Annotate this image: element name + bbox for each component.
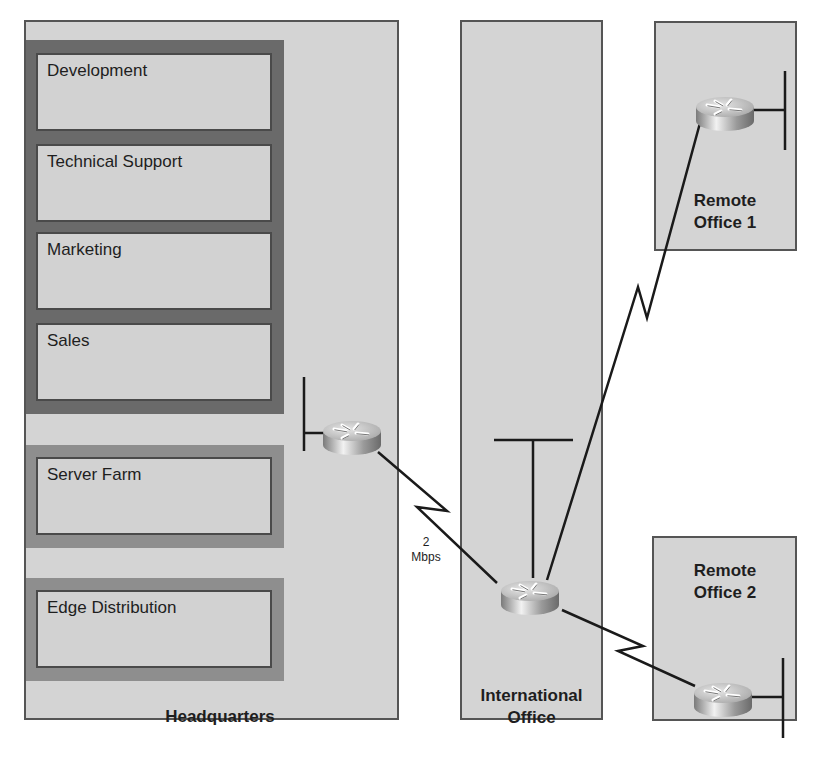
international-office-label-line1: International [460,685,603,707]
remote-office-1-router-icon[interactable] [696,97,754,131]
headquarters-label: Headquarters [140,706,300,728]
dept-development-label: Development [47,61,147,81]
module-edge-distribution: Edge Distribution [36,590,272,668]
dept-sales-label: Sales [47,331,90,351]
remote-office-1-label-line1: Remote [665,190,785,212]
dept-sales: Sales [36,323,272,401]
international-router-icon[interactable] [501,581,559,615]
remote-office-2-label-line1: Remote [665,560,785,582]
international-office-panel [460,20,603,720]
remote-office-1-label-line2: Office 1 [665,212,785,234]
international-office-label-line2: Office [460,707,603,729]
international-office-label: International Office [460,685,603,729]
remote-office-2-label: Remote Office 2 [665,560,785,604]
dept-technical-support-label: Technical Support [47,152,182,172]
link-bandwidth-value: 2 [400,535,452,550]
module-server-farm: Server Farm [36,457,272,535]
remote-office-1-label: Remote Office 1 [665,190,785,234]
dept-marketing: Marketing [36,232,272,310]
dept-development: Development [36,53,272,131]
remote-office-2-label-line2: Office 2 [665,582,785,604]
hq-router-icon[interactable] [323,421,381,455]
link-bandwidth-unit: Mbps [400,550,452,565]
remote-office-2-router-icon[interactable] [694,683,752,717]
module-edge-distribution-label: Edge Distribution [47,598,176,618]
dept-marketing-label: Marketing [47,240,122,260]
link-bandwidth-label: 2 Mbps [400,535,452,565]
dept-technical-support: Technical Support [36,144,272,222]
module-server-farm-label: Server Farm [47,465,141,485]
